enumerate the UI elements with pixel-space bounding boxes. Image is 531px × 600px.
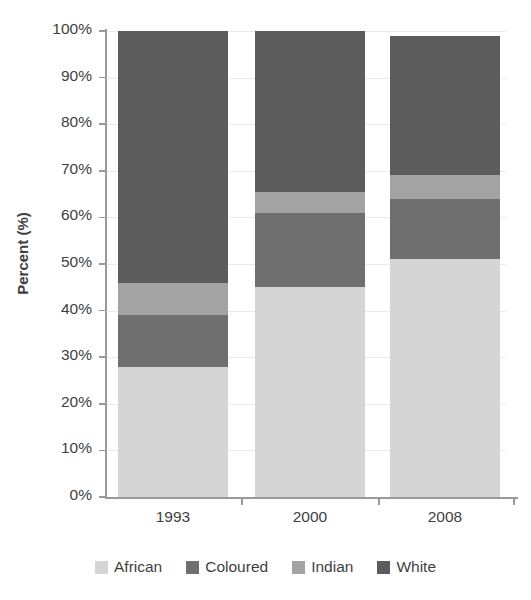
bar-segment[interactable] [118,31,228,283]
legend-item[interactable]: African [95,558,162,576]
x-axis-category-label: 2008 [390,508,500,526]
y-axis-tick-label: 10% [61,439,92,457]
bar-segment[interactable] [390,175,500,198]
bar-segment[interactable] [255,287,365,497]
stacked-bar-chart: Percent (%) 0%10%20%30%40%50%60%70%80%90… [0,0,531,600]
y-axis-tick-label: 20% [61,393,92,411]
bar-segment[interactable] [390,199,500,260]
bar-segment[interactable] [118,315,228,366]
x-axis-tick-mark [241,497,243,505]
y-axis-tick-mark [99,123,107,125]
y-axis-tick-label: 80% [61,113,92,131]
y-axis-tick-label: 100% [52,20,92,38]
legend-label: Coloured [205,558,268,576]
plot-area: 0%10%20%30%40%50%60%70%80%90%100% [106,31,506,497]
y-axis-tick-mark [99,310,107,312]
y-axis-tick-label: 0% [70,486,92,504]
y-axis-tick-mark [99,263,107,265]
chart-legend: AfricanColouredIndianWhite [0,558,531,576]
x-axis-tick-mark [378,497,380,505]
y-axis-tick-label: 40% [61,300,92,318]
legend-swatch-icon [95,561,108,574]
y-axis-title: Percent (%) [14,164,31,344]
y-axis-tick-label: 90% [61,67,92,85]
x-axis-category-label: 2000 [255,508,365,526]
y-axis-tick-label: 30% [61,346,92,364]
legend-label: African [114,558,162,576]
x-axis-category-label: 1993 [118,508,228,526]
y-axis-tick-mark [99,496,107,498]
y-axis-tick-mark [99,403,107,405]
bar-segment[interactable] [390,36,500,176]
bar-segment[interactable] [118,283,228,316]
y-axis-tick-label: 50% [61,253,92,271]
y-axis-tick-mark [99,77,107,79]
bar-segment[interactable] [255,192,365,213]
x-axis-tick-mark [513,497,515,505]
legend-label: White [396,558,436,576]
legend-item[interactable]: Indian [292,558,353,576]
legend-label: Indian [311,558,353,576]
bar-segment[interactable] [255,31,365,192]
y-axis-tick-mark [99,30,107,32]
y-axis-tick-mark [99,450,107,452]
y-axis-tick-label: 60% [61,206,92,224]
bar-segment[interactable] [390,259,500,497]
legend-swatch-icon [377,561,390,574]
bar-group[interactable] [118,31,228,497]
legend-item[interactable]: White [377,558,436,576]
legend-swatch-icon [186,561,199,574]
bar-group[interactable] [390,31,500,497]
x-axis-line [105,497,518,499]
bar-segment[interactable] [118,367,228,497]
bar-segment[interactable] [255,213,365,288]
y-axis-tick-label: 70% [61,160,92,178]
y-axis-tick-mark [99,356,107,358]
legend-item[interactable]: Coloured [186,558,268,576]
legend-swatch-icon [292,561,305,574]
bar-group[interactable] [255,31,365,497]
y-axis-tick-mark [99,170,107,172]
y-axis-tick-mark [99,217,107,219]
